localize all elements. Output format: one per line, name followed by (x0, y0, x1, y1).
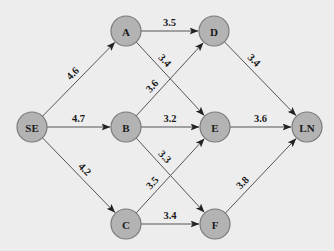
node-label: C (122, 219, 130, 231)
edge-se-a (42, 42, 114, 116)
edge-b-d (136, 43, 203, 116)
edge-se-c (42, 138, 114, 213)
node-label: F (212, 219, 219, 231)
edge-label-b-e: 3.2 (163, 113, 176, 124)
node-f: F (200, 209, 230, 239)
edge-label-e-ln: 3.6 (254, 113, 267, 124)
node-label: B (122, 122, 130, 134)
node-label: LN (299, 122, 314, 134)
edge-labels-layer: 4.64.74.23.53.43.63.23.33.53.43.43.63.8 (64, 17, 267, 221)
node-d: D (199, 16, 229, 46)
node-se: SE (17, 112, 47, 142)
edge-label-c-f: 3.4 (163, 210, 177, 221)
node-label: D (210, 26, 218, 38)
edge-f-ln (225, 139, 296, 214)
node-e: E (200, 112, 230, 142)
node-c: C (111, 209, 141, 239)
node-label: A (122, 26, 130, 38)
edge-d-ln (224, 42, 295, 116)
network-diagram: 4.64.74.23.53.43.63.23.33.53.43.43.63.8 … (0, 0, 334, 251)
node-a: A (111, 16, 141, 46)
edge-label-a-d: 3.5 (163, 17, 176, 28)
node-label: SE (25, 122, 38, 134)
edge-label-se-b: 4.7 (72, 113, 85, 124)
node-b: B (111, 112, 141, 142)
node-ln: LN (292, 112, 322, 142)
node-label: E (211, 122, 218, 134)
